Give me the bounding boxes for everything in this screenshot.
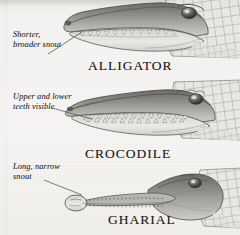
alligator-caption: ALLIGATOR [88, 58, 173, 74]
alligator-annotation: Shorter, broader snout [13, 30, 75, 51]
crocodile-eye [189, 94, 203, 104]
gharial-eye [189, 178, 202, 188]
page-margin-rule [6, 0, 7, 235]
page-margin-rule-outer [3, 0, 4, 235]
gharial-caption: GHARIAL [108, 212, 176, 228]
gharial-annotation: Long, narrow snout [13, 162, 83, 183]
figure-plate: Shorter, broader snout ALLIGATOR [0, 0, 240, 235]
crocodile-caption: CROCODILE [85, 146, 171, 162]
alligator-nostril [65, 21, 71, 26]
alligator-eye [182, 7, 197, 18]
crocodile-annotation: Upper and lower teeth visible [13, 92, 93, 113]
